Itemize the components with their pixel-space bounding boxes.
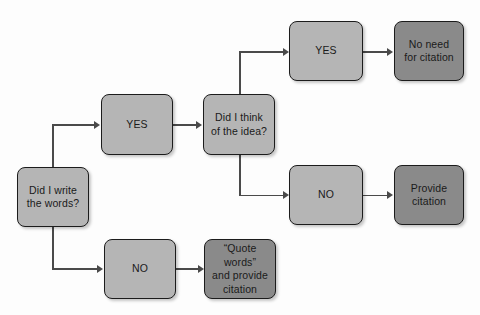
node-provide-citation[interactable]: Provide citation (394, 165, 464, 225)
flowchart-canvas: Did I write the words? YES NO Did I thin… (0, 0, 480, 315)
node-label: YES (126, 118, 147, 132)
node-no-thought-of-idea[interactable]: NO (289, 165, 363, 225)
node-no-wrote-words[interactable]: NO (104, 239, 176, 299)
node-label: YES (315, 44, 336, 58)
connector-no-to-provide (363, 195, 388, 197)
connector-no-to-quote (176, 268, 199, 270)
node-yes-wrote-words[interactable]: YES (101, 94, 173, 155)
node-label: NO (318, 188, 334, 202)
connector-write-to-no-vertical (52, 227, 54, 269)
node-label: NO (132, 262, 148, 276)
node-label: “Quote words” and provide citation (209, 242, 271, 296)
connector-yes-to-think (173, 124, 197, 126)
node-did-i-think-of-the-idea[interactable]: Did I think of the idea? (203, 94, 275, 155)
connector-think-to-yes-vertical (239, 51, 241, 95)
node-quote-words-and-provide-citation[interactable]: “Quote words” and provide citation (204, 239, 276, 299)
node-did-i-write-the-words[interactable]: Did I write the words? (17, 167, 89, 227)
connector-write-to-no-horizontal (52, 268, 98, 270)
node-no-need-for-citation[interactable]: No need for citation (394, 21, 464, 81)
node-label: Did I write the words? (27, 184, 79, 211)
connector-write-to-yes-vertical (52, 124, 54, 168)
connector-think-to-no-horizontal (239, 195, 284, 197)
node-yes-thought-of-idea[interactable]: YES (289, 21, 363, 81)
connector-think-to-yes-horizontal (239, 51, 284, 53)
node-label: No need for citation (404, 38, 454, 65)
arrowhead-yes-to-no-need (387, 48, 393, 56)
node-label: Provide citation (411, 182, 447, 209)
arrowhead-write-to-yes (94, 121, 100, 129)
node-label: Did I think of the idea? (211, 111, 267, 138)
connector-think-to-no-vertical (239, 154, 241, 196)
connector-yes-to-no-need (363, 51, 388, 53)
connector-write-to-yes-horizontal (52, 124, 95, 126)
arrowhead-yes-to-think (196, 121, 202, 129)
arrowhead-write-to-no (97, 265, 103, 273)
arrowhead-no-to-provide (387, 191, 393, 199)
